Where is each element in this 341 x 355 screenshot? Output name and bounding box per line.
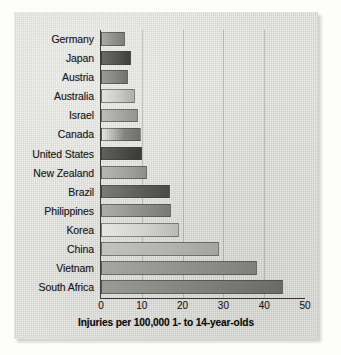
category-label: Korea <box>20 221 94 240</box>
bar[interactable] <box>101 128 141 141</box>
category-label: Vietnam <box>20 259 94 278</box>
plot-area <box>101 30 305 298</box>
bar-row <box>101 145 305 164</box>
bar-row <box>101 202 305 221</box>
category-label: United States <box>20 145 94 164</box>
bar[interactable] <box>101 280 283 293</box>
category-label: Austria <box>20 68 94 87</box>
bar-row <box>101 30 305 49</box>
x-tick-label: 10 <box>136 300 147 311</box>
chart-figure: GermanyJapanAustriaAustraliaIsraelCanada… <box>0 0 341 355</box>
category-label: Japan <box>20 49 94 68</box>
x-axis-line <box>100 298 305 299</box>
category-label: Israel <box>20 106 94 125</box>
bar[interactable] <box>101 223 179 236</box>
bar[interactable] <box>101 147 142 160</box>
bar-chart: GermanyJapanAustriaAustraliaIsraelCanada… <box>0 0 341 355</box>
x-tick-label: 20 <box>177 300 188 311</box>
bar-row <box>101 68 305 87</box>
bar-row <box>101 164 305 183</box>
bar-row <box>101 126 305 145</box>
x-axis-tick-labels: 01020304050 <box>101 300 305 314</box>
bar-row <box>101 183 305 202</box>
x-tick-label: 0 <box>98 300 104 311</box>
category-label: Brazil <box>20 183 94 202</box>
bar[interactable] <box>101 166 147 179</box>
bar[interactable] <box>101 89 135 102</box>
bar-row <box>101 221 305 240</box>
bar-row <box>101 259 305 278</box>
category-label: Australia <box>20 87 94 106</box>
bar[interactable] <box>101 70 128 83</box>
bar-row <box>101 106 305 125</box>
bar-row <box>101 49 305 68</box>
bar[interactable] <box>101 109 138 122</box>
category-label: Germany <box>20 30 94 49</box>
bar-row <box>101 87 305 106</box>
x-axis-title: Injuries per 100,000 1- to 14-year-olds <box>14 317 318 328</box>
x-tick-label: 30 <box>218 300 229 311</box>
category-label: Philippines <box>20 202 94 221</box>
category-axis-labels: GermanyJapanAustriaAustraliaIsraelCanada… <box>20 30 94 297</box>
category-label: China <box>20 240 94 259</box>
category-label: New Zealand <box>20 164 94 183</box>
bar[interactable] <box>101 242 219 255</box>
bar-row <box>101 278 305 297</box>
bar[interactable] <box>101 32 125 45</box>
x-tick-label: 50 <box>299 300 310 311</box>
bar-row <box>101 240 305 259</box>
x-tick-label: 40 <box>259 300 270 311</box>
bar[interactable] <box>101 185 170 198</box>
category-label: South Africa <box>20 278 94 297</box>
bar[interactable] <box>101 51 131 64</box>
bar[interactable] <box>101 204 171 217</box>
bar[interactable] <box>101 261 257 274</box>
category-label: Canada <box>20 125 94 144</box>
